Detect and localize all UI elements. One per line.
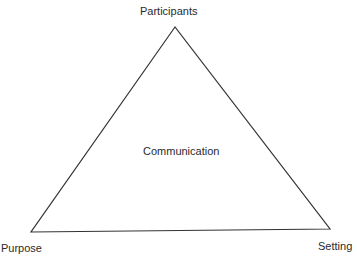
vertex-label-participants: Participants [140,5,197,18]
triangle-shape [0,0,357,263]
vertex-label-purpose: Purpose [1,242,42,255]
vertex-label-setting: Setting [318,240,352,253]
communication-triangle-diagram: Participants Communication Purpose Setti… [0,0,357,263]
center-label-communication: Communication [143,145,219,158]
